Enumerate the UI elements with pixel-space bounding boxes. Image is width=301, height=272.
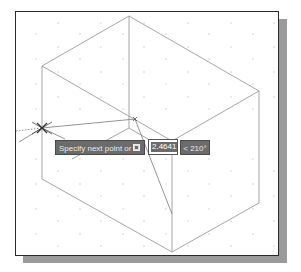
grid-dots [35,22,274,246]
distance-input[interactable]: 2.4641 [148,139,178,155]
dynamic-input-prompt: Specify next point or [55,140,145,155]
drawing-canvas[interactable] [16,12,278,255]
drawing-viewport[interactable] [15,11,279,256]
angle-input[interactable]: < 210° [180,140,210,155]
down-arrow-options-icon[interactable] [133,144,140,151]
rubber-band-lines [16,119,172,214]
isometric-box [42,16,259,252]
prompt-text: Specify next point or [59,144,131,153]
distance-value[interactable]: 2.4641 [151,142,177,152]
